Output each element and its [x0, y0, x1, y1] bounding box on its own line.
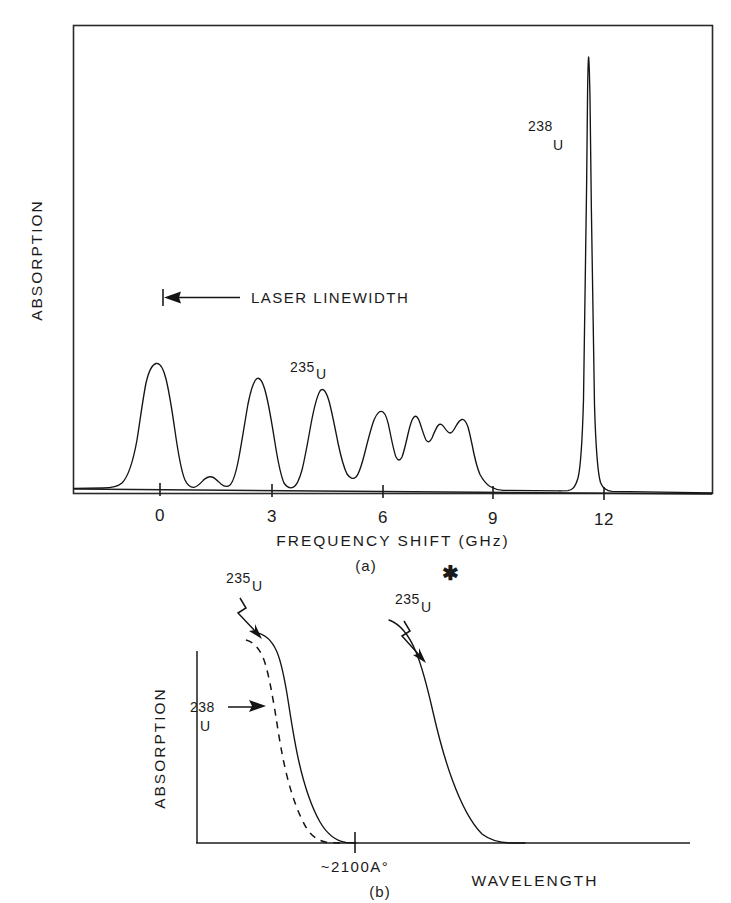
panel-a-ylabel: ABSORPTION — [28, 199, 45, 321]
panel-a-laser-linewidth-arrow-head — [164, 292, 181, 304]
panel-a-curve-235u — [74, 363, 560, 490]
panel-b-label-235u-excited-sup: 235 — [395, 591, 420, 607]
panel-b-label-238u-sup: 238 — [190, 699, 215, 715]
figure-svg: 0 3 6 9 12 FREQUENCY SHIFT (GHz) ABSORPT… — [0, 0, 731, 903]
panel-a-plot-frame — [74, 26, 713, 494]
panel-b-arrow-238u-head — [249, 700, 266, 712]
panel-b-curve-235u — [253, 632, 356, 843]
panel-b-ylabel: ABSORPTION — [151, 687, 168, 809]
panel-b-arrow-235u-excited-shaft — [402, 621, 420, 656]
panel-a-xlabel: FREQUENCY SHIFT (GHz) — [276, 532, 509, 549]
panel-a-xticklabel-3: 3 — [267, 507, 277, 526]
panel-b-curve-235u-excited — [389, 620, 525, 843]
panel-b-xlabel: WAVELENGTH — [472, 872, 599, 889]
panel-b-curve-238u — [246, 640, 340, 843]
panel-a-label-235u-base: U — [316, 366, 327, 382]
panel-a-xticklabel-12: 12 — [594, 510, 614, 529]
panel-b: ~2100A° ABSORPTION WAVELENGTH 235 U 238 … — [151, 562, 690, 900]
panel-b-xticklabel-2100a: ~2100A° — [321, 858, 390, 875]
panel-a: 0 3 6 9 12 FREQUENCY SHIFT (GHz) ABSORPT… — [28, 26, 713, 575]
panel-a-label-238u-base: U — [553, 137, 564, 153]
panel-b-arrow-235u-shaft — [238, 598, 256, 632]
panel-a-laser-linewidth-label: LASER LINEWIDTH — [251, 289, 409, 306]
figure-root: 0 3 6 9 12 FREQUENCY SHIFT (GHz) ABSORPT… — [0, 0, 731, 903]
panel-b-label-235u-sup: 235 — [226, 570, 251, 586]
panel-a-caption: (a) — [355, 557, 376, 574]
panel-b-label-235u-base: U — [252, 578, 263, 594]
panel-b-excited-state-star-icon: ✱ — [442, 562, 460, 584]
panel-a-label-238u-sup: 238 — [528, 118, 553, 134]
panel-a-xticklabel-0: 0 — [155, 506, 165, 525]
panel-a-curve-238u — [560, 57, 712, 493]
panel-a-xticklabel-6: 6 — [378, 508, 388, 527]
panel-b-label-238u-base: U — [200, 718, 211, 734]
panel-b-label-235u-excited-base: U — [421, 599, 432, 615]
panel-b-caption: (b) — [369, 883, 390, 900]
panel-a-xticklabel-9: 9 — [488, 509, 498, 528]
panel-a-label-235u-sup: 235 — [290, 359, 315, 375]
